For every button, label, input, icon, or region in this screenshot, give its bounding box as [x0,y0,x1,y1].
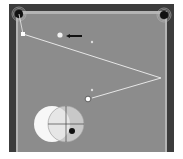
cue-ball [85,96,91,102]
pool-table-diagram [0,0,183,159]
ghost-spot-2 [91,89,93,91]
aim-chart [34,106,84,142]
object-ball [57,32,62,37]
pool-table [9,4,174,152]
start-marker [21,32,25,36]
ghost-spot-1 [91,41,93,43]
contact-point-dot [69,128,75,134]
